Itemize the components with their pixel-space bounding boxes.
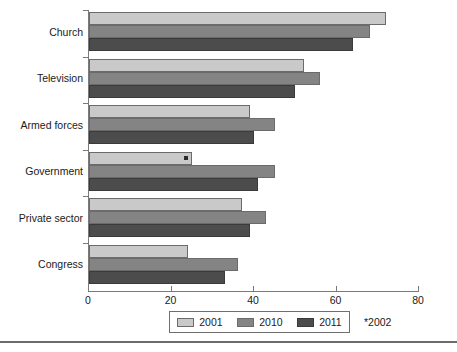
- x-axis-tick-0: [88, 286, 89, 292]
- x-axis-label-0: 0: [85, 294, 91, 306]
- legend-label-2001: 2001: [199, 316, 222, 328]
- chart-figure: ChurchTelevisionArmed forcesGovernmentPr…: [0, 0, 457, 352]
- legend-label-2010: 2010: [259, 316, 282, 328]
- footnote-label: *2002: [364, 316, 391, 328]
- x-axis-tick-20: [171, 286, 172, 292]
- bar-armed-forces-2010: [89, 118, 275, 131]
- category-label-armed-forces: Armed forces: [21, 119, 83, 131]
- y-axis-tick: [83, 57, 89, 58]
- bar-private-sector-2010: [89, 211, 266, 224]
- x-axis-label-60: 60: [330, 294, 342, 306]
- bar-government-2001: [89, 152, 192, 165]
- y-axis-tick: [83, 196, 89, 197]
- category-label-government: Government: [25, 165, 83, 177]
- bar-government-2011: [89, 178, 258, 191]
- category-label-church: Church: [49, 26, 83, 38]
- x-axis-tick-80: [418, 286, 419, 292]
- bar-church-2011: [89, 38, 353, 51]
- x-axis-label-40: 40: [247, 294, 259, 306]
- bar-armed-forces-2001: [89, 105, 250, 118]
- plot-area: ChurchTelevisionArmed forcesGovernmentPr…: [0, 0, 457, 300]
- y-axis-tick: [83, 103, 89, 104]
- legend-label-2011: 2011: [319, 316, 342, 328]
- x-axis-label-80: 80: [412, 294, 424, 306]
- category-label-television: Television: [37, 72, 83, 84]
- bar-congress-2011: [89, 271, 225, 284]
- bar-television-2001: [89, 59, 304, 72]
- bar-congress-2001: [89, 245, 188, 258]
- bar-television-2010: [89, 72, 320, 85]
- category-label-congress: Congress: [38, 258, 83, 270]
- chart-legend: 200120102011: [169, 311, 350, 333]
- y-axis-tick: [83, 150, 89, 151]
- bar-congress-2010: [89, 258, 238, 271]
- bar-television-2011: [89, 85, 295, 98]
- footnote-marker-icon: [184, 156, 188, 160]
- bar-government-2010: [89, 165, 275, 178]
- category-label-private-sector: Private sector: [19, 212, 83, 224]
- bar-church-2010: [89, 25, 370, 38]
- bar-private-sector-2001: [89, 198, 242, 211]
- y-axis-tick: [83, 10, 89, 11]
- x-axis-tick-40: [253, 286, 254, 292]
- legend-swatch-2010: [237, 318, 254, 327]
- legend-entry-2011: 2011: [297, 316, 342, 328]
- bar-church-2001: [89, 12, 386, 25]
- bar-private-sector-2011: [89, 224, 250, 237]
- legend-swatch-2011: [297, 318, 314, 327]
- bar-armed-forces-2011: [89, 131, 254, 144]
- y-axis-tick: [83, 243, 89, 244]
- x-axis-tick-60: [336, 286, 337, 292]
- legend-entry-2001: 2001: [177, 316, 222, 328]
- legend-swatch-2001: [177, 318, 194, 327]
- bottom-divider: [0, 341, 457, 343]
- x-axis-label-20: 20: [165, 294, 177, 306]
- legend-entry-2010: 2010: [237, 316, 282, 328]
